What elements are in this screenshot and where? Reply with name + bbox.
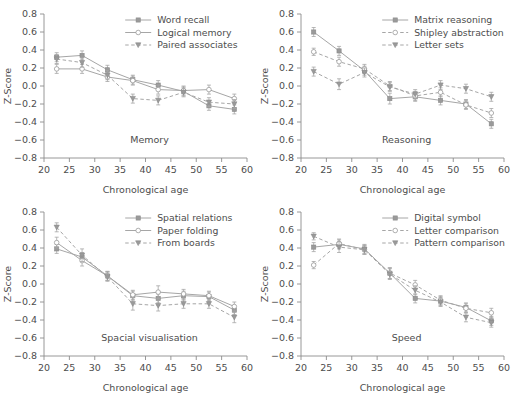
x-tick-label: 35 bbox=[114, 164, 126, 175]
data-point bbox=[181, 292, 186, 297]
panel-title-spatial: Spacial visualisation bbox=[101, 332, 198, 343]
data-point bbox=[489, 95, 494, 100]
data-point bbox=[80, 53, 84, 57]
y-tick-label: −0.6 bbox=[14, 134, 37, 145]
x-tick-label: 55 bbox=[473, 362, 485, 373]
data-point bbox=[232, 304, 237, 309]
data-point bbox=[232, 315, 237, 320]
legend-marker bbox=[393, 30, 398, 35]
legend-item-memory-1[interactable]: Logical memory bbox=[125, 27, 232, 38]
y-tick-label: 0.8 bbox=[22, 206, 37, 217]
y-axis-title: Z-Score bbox=[2, 266, 13, 303]
legend-item-reasoning-1[interactable]: Shipley abstraction bbox=[382, 27, 504, 38]
y-tick-label: −0.2 bbox=[14, 98, 37, 109]
y-tick-label: 0.2 bbox=[279, 62, 294, 73]
panel-title-memory: Memory bbox=[130, 134, 169, 145]
y-tick-label: −0.2 bbox=[271, 98, 294, 109]
legend-item-speed-1[interactable]: Letter comparison bbox=[382, 225, 499, 236]
legend-label: Paired associates bbox=[157, 39, 237, 50]
y-tick-label: −0.8 bbox=[271, 350, 294, 361]
chart-panel-memory: 202530354045505560−0.8−0.6−0.4−0.20.00.2… bbox=[0, 0, 257, 198]
legend-reasoning: Matrix reasoningShipley abstractionLette… bbox=[382, 14, 504, 50]
x-tick-label: 50 bbox=[190, 362, 202, 373]
x-tick-label: 35 bbox=[371, 362, 383, 373]
y-tick-label: −0.4 bbox=[14, 116, 37, 127]
legend-item-spatial-1[interactable]: Paper folding bbox=[125, 225, 218, 236]
legend-label: Letter sets bbox=[414, 39, 464, 50]
x-tick-label: 20 bbox=[295, 362, 307, 373]
data-point bbox=[311, 50, 316, 55]
legend-item-memory-0[interactable]: Word recall bbox=[125, 14, 209, 25]
y-tick-label: 0.8 bbox=[279, 8, 294, 19]
y-axis-title: Z-Score bbox=[259, 266, 270, 303]
legend-item-reasoning-2[interactable]: Letter sets bbox=[382, 39, 464, 50]
x-tick-label: 30 bbox=[346, 164, 358, 175]
data-point bbox=[311, 263, 316, 268]
data-point bbox=[131, 78, 136, 83]
legend-item-spatial-2[interactable]: From boards bbox=[125, 237, 215, 248]
x-axis-title: Chronological age bbox=[103, 382, 189, 393]
panel-title-reasoning: Reasoning bbox=[382, 134, 431, 145]
legend-item-speed-0[interactable]: Digital symbol bbox=[382, 212, 481, 223]
legend-marker bbox=[393, 228, 398, 233]
y-tick-label: 0.6 bbox=[279, 224, 294, 235]
chart-svg-memory: 202530354045505560−0.8−0.6−0.4−0.20.00.2… bbox=[0, 0, 257, 198]
data-point bbox=[413, 296, 417, 300]
series-reasoning-2 bbox=[311, 67, 494, 101]
x-tick-label: 30 bbox=[346, 362, 358, 373]
y-tick-label: −0.8 bbox=[14, 350, 37, 361]
y-tick-label: −0.2 bbox=[14, 296, 37, 307]
series-reasoning-0 bbox=[312, 28, 494, 129]
data-point bbox=[489, 111, 494, 116]
series-memory-1 bbox=[54, 64, 236, 103]
x-axis-title: Chronological age bbox=[360, 184, 446, 195]
x-axis-title: Chronological age bbox=[103, 184, 189, 195]
legend-memory: Word recallLogical memoryPaired associat… bbox=[125, 14, 237, 50]
x-tick-label: 45 bbox=[165, 164, 177, 175]
data-point bbox=[413, 288, 418, 293]
chart-svg-speed: 202530354045505560−0.8−0.6−0.4−0.20.00.2… bbox=[257, 198, 514, 396]
data-point bbox=[312, 245, 316, 249]
x-tick-label: 25 bbox=[63, 164, 75, 175]
x-tick-label: 55 bbox=[216, 362, 228, 373]
data-point bbox=[464, 103, 469, 108]
x-tick-label: 35 bbox=[371, 164, 383, 175]
legend-marker bbox=[136, 228, 141, 233]
legend-item-speed-2[interactable]: Pattern comparison bbox=[382, 237, 505, 248]
y-tick-label: 0.2 bbox=[22, 62, 37, 73]
y-tick-label: 0.8 bbox=[279, 206, 294, 217]
y-tick-label: −0.8 bbox=[271, 152, 294, 163]
y-tick-label: −0.4 bbox=[271, 116, 294, 127]
y-tick-label: 0.2 bbox=[22, 260, 37, 271]
y-tick-label: −0.8 bbox=[14, 152, 37, 163]
x-tick-label: 50 bbox=[447, 362, 459, 373]
chart-svg-reasoning: 202530354045505560−0.8−0.6−0.4−0.20.00.2… bbox=[257, 0, 514, 198]
legend-item-spatial-0[interactable]: Spatial relations bbox=[125, 212, 232, 223]
x-tick-label: 30 bbox=[89, 362, 101, 373]
legend-label: Spatial relations bbox=[157, 212, 232, 223]
data-point bbox=[438, 90, 443, 95]
chart-panel-reasoning: 202530354045505560−0.8−0.6−0.4−0.20.00.2… bbox=[257, 0, 515, 198]
legend-item-memory-2[interactable]: Paired associates bbox=[125, 39, 237, 50]
x-tick-label: 40 bbox=[396, 164, 408, 175]
legend-marker bbox=[393, 216, 397, 220]
y-tick-label: −0.4 bbox=[14, 314, 37, 325]
x-tick-label: 50 bbox=[190, 164, 202, 175]
x-tick-label: 45 bbox=[422, 362, 434, 373]
y-axis-title: Z-Score bbox=[2, 68, 13, 105]
x-tick-label: 30 bbox=[89, 164, 101, 175]
legend-item-reasoning-0[interactable]: Matrix reasoning bbox=[382, 14, 492, 25]
data-point bbox=[336, 82, 341, 87]
y-tick-label: 0.2 bbox=[279, 260, 294, 271]
legend-label: From boards bbox=[157, 237, 215, 248]
x-tick-label: 25 bbox=[320, 164, 332, 175]
y-tick-label: 0.4 bbox=[22, 44, 37, 55]
data-point bbox=[388, 97, 392, 101]
y-tick-label: −0.6 bbox=[271, 332, 294, 343]
x-tick-label: 40 bbox=[139, 362, 151, 373]
cognitive-ability-figure: 202530354045505560−0.8−0.6−0.4−0.20.00.2… bbox=[0, 0, 515, 397]
y-tick-label: 0.4 bbox=[279, 44, 294, 55]
x-tick-label: 45 bbox=[165, 362, 177, 373]
x-tick-label: 25 bbox=[63, 362, 75, 373]
x-tick-label: 50 bbox=[447, 164, 459, 175]
